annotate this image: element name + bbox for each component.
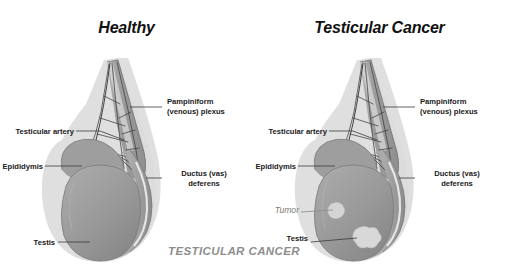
- label-ductus-line1: Ductus (vas): [165, 169, 243, 179]
- label-pampiniform-line2: (venous) plexus: [167, 107, 225, 117]
- label-ductus-line2: deferens: [418, 179, 496, 189]
- label-pampiniform-plexus: Pampiniform (venous) plexus: [420, 97, 478, 116]
- label-ductus-deferens: Ductus (vas) deferens: [165, 169, 243, 188]
- label-pampiniform-line2: (venous) plexus: [420, 107, 478, 117]
- label-pampiniform-line1: Pampiniform: [420, 97, 478, 107]
- testis: [314, 165, 393, 261]
- label-testis: Testis: [253, 234, 308, 244]
- label-epididymis: Epididymis: [0, 162, 43, 172]
- label-epididymis: Epididymis: [253, 162, 296, 172]
- label-ductus-line2: deferens: [165, 179, 243, 189]
- label-testicular-artery: Testicular artery: [0, 127, 74, 137]
- testis: [61, 165, 140, 261]
- tumor-nodule-lower: [353, 226, 382, 248]
- panel-healthy: Healthy: [0, 0, 253, 280]
- label-ductus-line1: Ductus (vas): [418, 169, 496, 179]
- label-ductus-deferens: Ductus (vas) deferens: [418, 169, 496, 188]
- label-tumor: Tumor: [253, 206, 299, 216]
- watermark-testicular-cancer: TESTICULAR CANCER: [168, 245, 300, 257]
- panel-testicular-cancer: Testicular Cancer: [253, 0, 506, 280]
- label-pampiniform-plexus: Pampiniform (venous) plexus: [167, 97, 225, 116]
- label-testis: Testis: [0, 238, 55, 248]
- label-testicular-artery: Testicular artery: [253, 127, 327, 137]
- diagram-canvas: Healthy: [0, 0, 507, 280]
- label-pampiniform-line1: Pampiniform: [167, 97, 225, 107]
